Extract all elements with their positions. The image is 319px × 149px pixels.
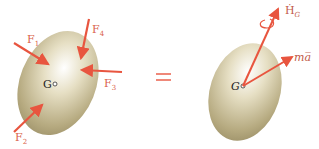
center-of-mass-left	[53, 82, 57, 86]
diagram-canvas	[0, 0, 319, 149]
label-g-right: G	[231, 81, 240, 92]
label-ma: ma̅	[294, 52, 311, 63]
label-f2: F2	[15, 132, 27, 146]
label-f4: F4	[92, 24, 104, 38]
label-f3: F3	[104, 78, 116, 92]
label-g-left: G	[43, 79, 52, 90]
label-f1: F1	[27, 34, 39, 48]
label-h-g-dot: ḢG	[285, 5, 300, 19]
rigid-body-right	[196, 34, 293, 149]
